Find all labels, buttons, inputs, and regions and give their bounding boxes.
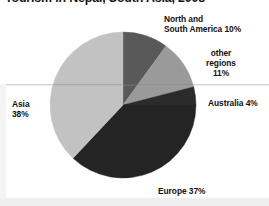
pie-chart-figure: Tourism in Nepal, South Asia, 2008 North… [0, 0, 269, 206]
pie-label-asia: Asia 38% [12, 99, 30, 119]
pie-label-other-regions: other regions 11% [198, 48, 244, 79]
pie-label-australia: Australia 4% [208, 98, 258, 108]
pie-label-north-and-south-america: North and South America 10% [164, 14, 241, 34]
pie-label-europe: Europe 37% [158, 186, 205, 196]
